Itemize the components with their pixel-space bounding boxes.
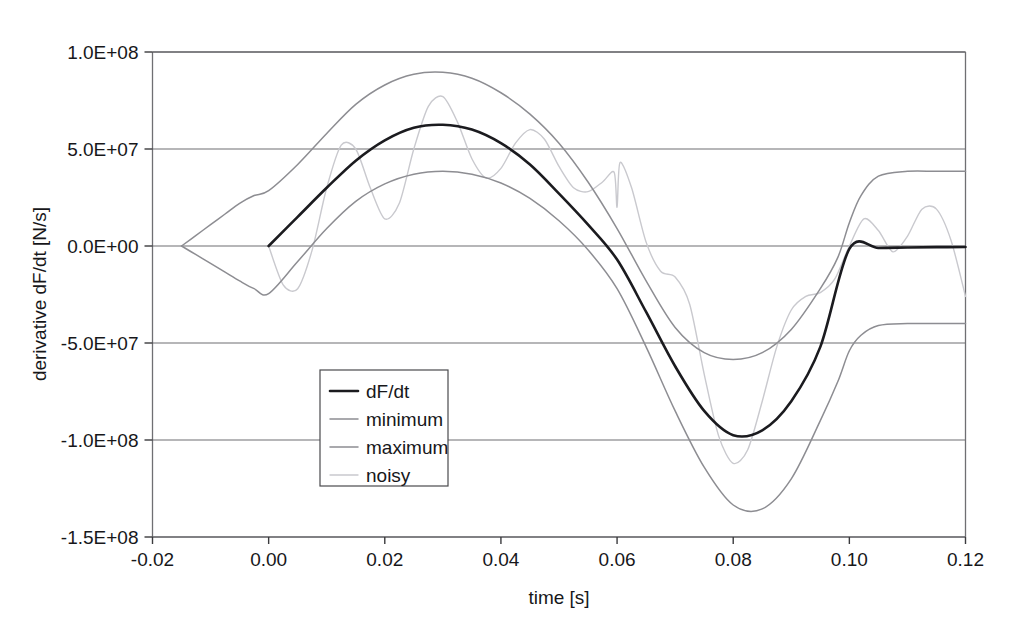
y-tick-label: -1.0E+08	[61, 430, 139, 451]
legend-label-noisy: noisy	[366, 465, 411, 486]
x-tick-label: 0.08	[715, 549, 752, 570]
x-tick-label: 0.10	[831, 549, 868, 570]
x-tick-label: 0.04	[482, 549, 519, 570]
y-tick-label: 1.0E+08	[67, 42, 138, 63]
x-tick-label: -0.02	[131, 549, 174, 570]
x-tick-label: 0.02	[366, 549, 403, 570]
legend-label-df-dt: dF/dt	[366, 381, 410, 402]
x-tick-label: 0.12	[947, 549, 984, 570]
x-tick-label: 0.00	[250, 549, 287, 570]
chart-legend: dF/dtminimummaximumnoisy	[320, 370, 448, 486]
y-tick-label: -1.5E+08	[61, 527, 139, 548]
chart-svg: -0.020.000.020.040.060.080.100.12 1.0E+0…	[0, 0, 1015, 634]
legend-label-maximum: maximum	[366, 437, 448, 458]
x-tick-label: 0.06	[599, 549, 636, 570]
y-axis-title: derivative dF/dt [N/s]	[29, 207, 50, 381]
legend-label-minimum: minimum	[366, 409, 443, 430]
y-tick-label: 5.0E+07	[67, 139, 138, 160]
x-axis-title: time [s]	[528, 587, 589, 608]
chart-figure: -0.020.000.020.040.060.080.100.12 1.0E+0…	[0, 0, 1015, 634]
y-tick-label: -5.0E+07	[61, 333, 139, 354]
y-tick-label: 0.0E+00	[67, 236, 138, 257]
